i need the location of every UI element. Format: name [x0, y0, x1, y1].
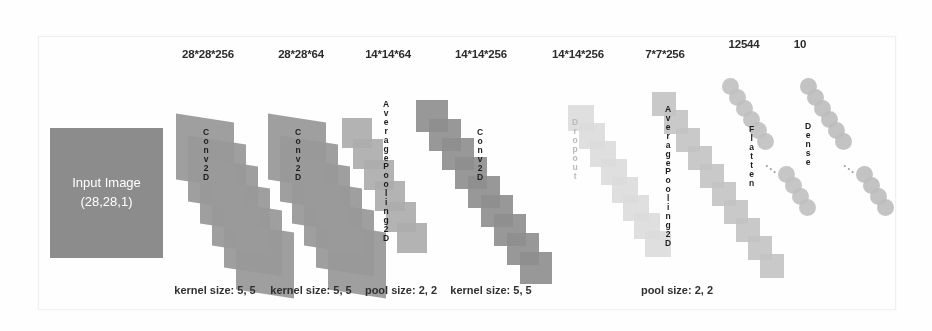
layer-name-flatten-6: Flatten	[749, 125, 754, 187]
top-label-3: 14*14*256	[455, 48, 507, 60]
layer-name-averagepooling2d-5: AveragePooling2D	[665, 105, 671, 248]
layer-name-char: e	[806, 158, 811, 167]
bottom-label-3: kernel size: 5, 5	[450, 284, 531, 296]
layer-name-char: n	[749, 179, 754, 188]
diagram-canvas: Input Image (28,28,1) Conv2DConv2DAverag…	[0, 0, 932, 331]
layer-block	[799, 199, 816, 216]
input-image-label-line1: Input Image	[72, 174, 141, 193]
bottom-label-2: pool size: 2, 2	[365, 284, 437, 296]
layer-name-dense-7: Dense	[805, 122, 811, 167]
layer-name-char: D	[477, 173, 483, 182]
top-label-6: 12544	[729, 38, 760, 50]
layer-block	[877, 199, 894, 216]
layer-block	[397, 223, 427, 253]
layer-block	[760, 254, 784, 278]
top-label-1: 28*28*64	[278, 48, 324, 60]
layer-name-char: D	[203, 173, 209, 182]
input-image-label-line2: (28,28,1)	[80, 193, 132, 212]
layer-name-dropout-4: Dropout	[572, 118, 578, 180]
layer-name-conv2d-0: Conv2D	[203, 128, 209, 182]
bottom-label-4: pool size: 2, 2	[641, 284, 713, 296]
top-label-2: 14*14*64	[365, 48, 411, 60]
layer-block	[835, 133, 852, 150]
bottom-label-0: kernel size: 5, 5	[174, 284, 255, 296]
top-label-5: 7*7*256	[645, 48, 685, 60]
top-label-4: 14*14*256	[552, 48, 604, 60]
top-label-7: 10	[794, 38, 806, 50]
layer-name-char: t	[574, 172, 577, 181]
layer-name-averagepooling2d-2: AveragePooling2D	[383, 100, 389, 243]
layer-block	[757, 133, 774, 150]
top-label-0: 28*28*256	[182, 48, 234, 60]
layer-name-conv2d-3: Conv2D	[477, 128, 483, 182]
layer-name-conv2d-1: Conv2D	[295, 128, 301, 182]
layer-block	[520, 252, 552, 284]
input-image-block: Input Image (28,28,1)	[50, 128, 163, 258]
bottom-label-1: kernel size: 5, 5	[270, 284, 351, 296]
layer-name-char: D	[383, 234, 389, 243]
layer-name-char: D	[295, 173, 301, 182]
layer-name-char: D	[665, 239, 671, 248]
